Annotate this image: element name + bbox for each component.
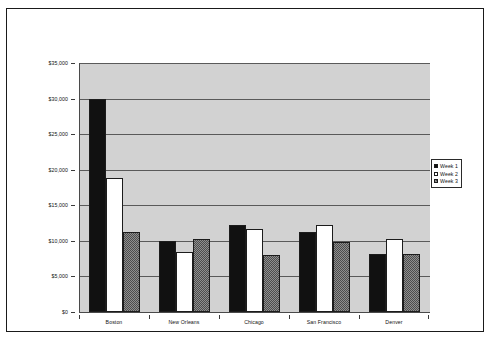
bar [193,239,210,312]
y-tick-mark [71,241,75,242]
x-tick-mark [289,315,290,319]
bar-group [89,63,140,312]
bar [333,242,350,312]
y-tick-mark [71,63,75,64]
bar [89,99,106,312]
legend-item: Week 1 [434,163,458,170]
bar [299,232,316,312]
bar [229,225,246,312]
legend-label: Week 2 [440,171,458,177]
bar [386,239,403,312]
y-tick-mark [71,134,75,135]
y-tick-label: $5,000 [52,273,68,279]
y-tick-label: $25,000 [49,131,68,137]
bar [159,241,176,312]
y-tick-mark [71,99,75,100]
x-tick-label: San Francisco [289,315,359,331]
y-tick-mark [71,276,75,277]
x-tick-mark [149,315,150,319]
legend-label: Week 3 [440,178,458,184]
bar [246,229,263,312]
bar [316,225,333,313]
y-axis: $35,000$30,000$25,000$20,000$15,000$10,0… [7,53,75,323]
y-tick-label: $35,000 [49,60,68,66]
bar-group [369,63,420,312]
x-tick-label: New Orleans [149,315,219,331]
y-tick-mark [71,170,75,171]
x-tick-mark [359,315,360,319]
legend-swatch-icon [434,172,438,176]
bar [176,252,193,312]
bar [106,178,123,312]
y-tick-label: $0 [62,309,68,315]
legend-swatch-icon [434,179,438,183]
legend-swatch-icon [434,164,438,168]
y-tick-mark [71,205,75,206]
legend-item: Week 2 [434,170,458,177]
x-tick-label: Denver [359,315,429,331]
bar [123,232,140,312]
chart-figure-frame: $35,000$30,000$25,000$20,000$15,000$10,0… [6,8,484,332]
legend-item: Week 3 [434,178,458,185]
x-tick-label: Chicago [219,315,289,331]
bar-group [159,63,210,312]
y-tick-label: $30,000 [49,96,68,102]
bar [263,255,280,312]
bar-group [229,63,280,312]
y-tick-mark [71,312,75,313]
y-tick-label: $10,000 [49,238,68,244]
chart-legend: Week 1Week 2Week 3 [431,159,462,188]
bar [369,254,386,312]
x-tick-mark [428,315,429,319]
y-tick-label: $20,000 [49,167,68,173]
x-axis: BostonNew OrleansChicagoSan FranciscoDen… [79,315,429,331]
x-tick-mark [79,315,80,319]
legend-label: Week 1 [440,163,458,169]
bar-group [299,63,350,312]
bars-layer [79,63,429,312]
y-tick-label: $15,000 [49,202,68,208]
x-tick-mark [219,315,220,319]
x-tick-label: Boston [79,315,149,331]
bar [403,254,420,312]
